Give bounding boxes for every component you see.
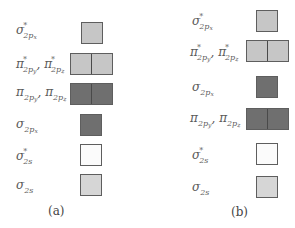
orbital-box: [80, 174, 102, 196]
orbital-box: [81, 22, 103, 44]
orbital-box: [267, 41, 288, 61]
orbital-label-sigma-star-2px: σ*2px: [192, 13, 213, 31]
orbital-box-pair: [246, 108, 289, 130]
orbital-label-pi-2py-2pz: π2py, π2pz: [190, 112, 240, 128]
orbital-box: [71, 84, 91, 104]
orbital-box: [71, 54, 91, 74]
orbital-label-sigma-star-2s: σ*2s: [192, 147, 208, 165]
orbital-label-sigma-2s: σ2s: [192, 181, 209, 197]
panel-caption-b: (b): [231, 205, 248, 219]
panel-caption-a: (a): [48, 204, 65, 218]
orbital-box: [256, 143, 278, 165]
orbital-box: [91, 84, 112, 104]
orbital-box: [91, 54, 112, 74]
orbital-box: [247, 109, 267, 129]
orbital-box-pair: [70, 83, 113, 105]
orbital-box: [256, 176, 278, 198]
orbital-label-sigma-star-2px: σ*2px: [16, 22, 37, 40]
orbital-box: [247, 41, 267, 61]
orbital-label-sigma-2px: σ2px: [16, 118, 38, 134]
orbital-label-sigma-2s: σ2s: [16, 179, 33, 195]
orbital-box: [267, 109, 288, 129]
orbital-box: [256, 76, 278, 98]
orbital-label-pi-star-2py-2pz: π*2py, π*2pz: [190, 44, 238, 62]
orbital-label-pi-2py-2pz: π2py, π2pz: [16, 86, 66, 102]
orbital-label-sigma-star-2s: σ*2s: [16, 148, 32, 166]
orbital-box: [256, 10, 278, 32]
orbital-box: [80, 144, 102, 166]
orbital-label-sigma-2px: σ2px: [192, 81, 214, 97]
orbital-box-pair: [246, 40, 289, 62]
orbital-box-pair: [70, 53, 113, 75]
orbital-box: [80, 114, 102, 136]
orbital-label-pi-star-2py-2pz: π*2py, π*2pz: [16, 56, 64, 74]
